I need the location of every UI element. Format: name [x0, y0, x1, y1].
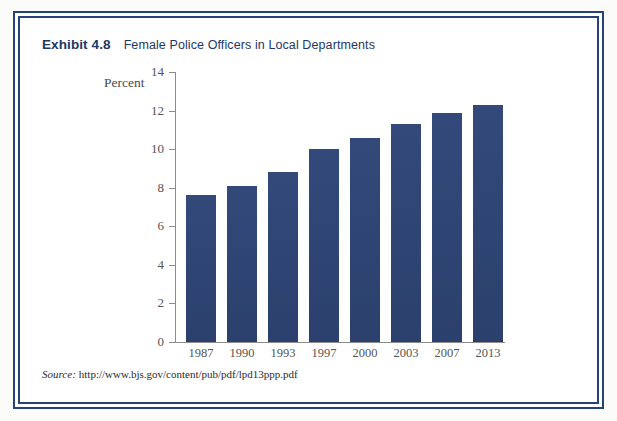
y-axis-tick-label: 12 [134, 104, 164, 117]
bar-2000 [350, 138, 380, 342]
x-axis-line [175, 342, 505, 343]
y-axis-tick-8 [169, 188, 176, 189]
y-axis-tick-labels: 02468101214 [132, 18, 164, 402]
x-axis-tick-label: 1990 [219, 346, 265, 361]
bar-chart: Percent 02468101214 19871990199319972000… [20, 18, 597, 402]
bar-1987 [186, 195, 216, 342]
y-axis-tick-0 [169, 342, 176, 343]
bar-1990 [227, 186, 257, 342]
y-axis-tick-label: 2 [134, 296, 164, 309]
x-axis-tick-label: 1997 [301, 346, 347, 361]
bar-slot [309, 72, 339, 342]
y-axis-tick-10 [169, 149, 176, 150]
y-axis-tick-label: 4 [134, 258, 164, 271]
bar-slot [391, 72, 421, 342]
x-axis-tick-label: 1987 [178, 346, 224, 361]
x-axis-tick-label: 1993 [260, 346, 306, 361]
bar-slot [350, 72, 380, 342]
y-axis-tick-2 [169, 303, 176, 304]
y-axis-tick-label: 0 [134, 335, 164, 348]
y-axis-tick-label: 8 [134, 181, 164, 194]
bar-slot [268, 72, 298, 342]
y-axis-tick-6 [169, 226, 176, 227]
y-axis-tick-label: 10 [134, 142, 164, 155]
source-note: Source:http://www.bjs.gov/content/pub/pd… [42, 368, 298, 380]
bar-slot [227, 72, 257, 342]
y-axis-tick-label: 6 [134, 219, 164, 232]
x-axis-tick-label: 2013 [465, 346, 511, 361]
source-label: Source: [42, 368, 76, 380]
bar-2013 [473, 105, 503, 342]
bars-group: 19871990199319972000200320072013 [176, 72, 505, 342]
y-axis-tick-label: 14 [134, 65, 164, 78]
bar-2007 [432, 113, 462, 343]
bar-2003 [391, 124, 421, 342]
bar-slot [432, 72, 462, 342]
bar-1993 [268, 172, 298, 342]
exhibit-figure-page: Exhibit 4.8Female Police Officers in Loc… [0, 0, 617, 421]
y-axis-tick-14 [169, 72, 176, 73]
x-axis-tick-label: 2000 [342, 346, 388, 361]
figure-panel: Exhibit 4.8Female Police Officers in Loc… [20, 18, 597, 402]
y-axis-tick-4 [169, 265, 176, 266]
bar-slot [473, 72, 503, 342]
x-axis-tick-label: 2003 [383, 346, 429, 361]
x-axis-tick-label: 2007 [424, 346, 470, 361]
bar-slot [186, 72, 216, 342]
y-axis-tick-12 [169, 111, 176, 112]
source-url-text: http://www.bjs.gov/content/pub/pdf/lpd13… [79, 368, 298, 380]
bar-1997 [309, 149, 339, 342]
